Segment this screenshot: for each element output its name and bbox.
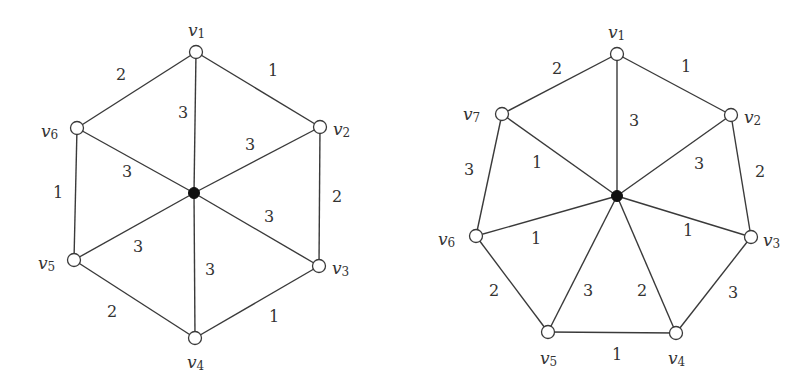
vertex-label-v5: v5 — [38, 253, 55, 274]
vertices: v1v2v3v4v5v6v7 — [438, 22, 780, 369]
hub-vertex — [612, 191, 623, 202]
vertex-v7 — [496, 108, 509, 121]
wheel-graph-7: 33123111231232v1v2v3v4v5v6v7 — [438, 22, 780, 369]
rim-edge-v1-v2 — [196, 52, 320, 127]
spoke-weight-label: 3 — [245, 135, 255, 154]
vertex-v2 — [314, 121, 327, 134]
vertex-label-v3: v3 — [332, 258, 349, 279]
rim-weight-label: 2 — [489, 281, 499, 300]
spoke-edge-v1 — [194, 52, 196, 193]
rim-edge-v5-v6 — [476, 236, 548, 332]
spoke-weight-label: 1 — [531, 229, 541, 248]
rim-edge-v2-v3 — [319, 127, 320, 266]
spoke-edge-v4 — [617, 196, 676, 333]
spoke-weight-label: 3 — [122, 162, 132, 181]
vertex-label-v4: v4 — [668, 348, 686, 369]
vertex-v3 — [745, 231, 758, 244]
spoke-weight-label: 3 — [583, 281, 593, 300]
rim-weight-label: 2 — [332, 187, 342, 206]
vertex-label-v3: v3 — [763, 230, 780, 251]
vertex-label-v6: v6 — [438, 229, 455, 250]
rim-weight-label: 1 — [53, 183, 63, 202]
vertex-v6 — [71, 122, 84, 135]
vertex-v2 — [725, 109, 738, 122]
rim-weight-label: 2 — [116, 65, 126, 84]
spoke-weight-label: 3 — [694, 154, 704, 173]
wheel-graph-6: 333333121212v1v2v3v4v5v6 — [38, 20, 350, 373]
vertex-label-v2: v2 — [744, 107, 761, 128]
vertex-label-v6: v6 — [41, 121, 58, 142]
spoke-edge-v2 — [194, 127, 320, 193]
spoke-edge-v5 — [548, 196, 617, 332]
spoke-edge-v7 — [502, 114, 617, 196]
edge-weight-labels: 33123111231232 — [464, 57, 765, 364]
vertex-label-v7: v7 — [463, 104, 480, 125]
rim-weight-label: 1 — [268, 61, 278, 80]
spoke-edge-v4 — [194, 193, 195, 338]
vertex-v3 — [313, 260, 326, 273]
rim-edge-v2-v3 — [731, 115, 751, 237]
vertex-v5 — [542, 326, 555, 339]
rim-weight-label: 2 — [552, 59, 562, 78]
rim-weight-label: 1 — [269, 307, 279, 326]
vertex-v5 — [68, 254, 81, 267]
rim-weight-label: 2 — [755, 162, 765, 181]
vertex-v1 — [611, 48, 624, 61]
rim-weight-label: 1 — [612, 345, 622, 364]
rim-edge-v6-v7 — [476, 114, 502, 236]
spoke-weight-label: 3 — [629, 111, 639, 130]
vertex-v4 — [670, 327, 683, 340]
rim-edge-v5-v6 — [74, 128, 77, 260]
rim-edge-v4-v5 — [74, 260, 195, 338]
spoke-weight-label: 3 — [178, 103, 188, 122]
vertex-label-v1: v1 — [608, 22, 625, 43]
vertex-label-v5: v5 — [540, 348, 557, 369]
vertex-v4 — [189, 332, 202, 345]
vertex-label-v2: v2 — [333, 119, 350, 140]
rim-weight-label: 1 — [681, 57, 691, 76]
spoke-weight-label: 3 — [264, 207, 274, 226]
vertex-label-v4: v4 — [187, 352, 205, 373]
spoke-weight-label: 1 — [683, 221, 693, 240]
rim-edge-v1-v2 — [617, 54, 731, 115]
vertex-v1 — [190, 46, 203, 59]
spoke-weight-label: 3 — [205, 260, 215, 279]
hub-vertex — [189, 188, 200, 199]
spoke-edge-v6 — [77, 128, 194, 193]
rim-weight-label: 3 — [728, 283, 738, 302]
spoke-weight-label: 1 — [532, 153, 542, 172]
vertex-v6 — [470, 230, 483, 243]
diagram-canvas: 333333121212v1v2v3v4v5v6 33123111231232v… — [0, 0, 811, 389]
spoke-edge-v3 — [194, 193, 319, 266]
spoke-weight-label: 2 — [637, 281, 647, 300]
spoke-edge-v6 — [476, 196, 617, 236]
spoke-weight-label: 3 — [133, 237, 143, 256]
rim-edge-v3-v4 — [676, 237, 751, 333]
rim-edge-v4-v5 — [548, 332, 676, 333]
rim-weight-label: 2 — [107, 302, 117, 321]
vertex-label-v1: v1 — [188, 20, 205, 41]
rim-weight-label: 3 — [464, 160, 474, 179]
